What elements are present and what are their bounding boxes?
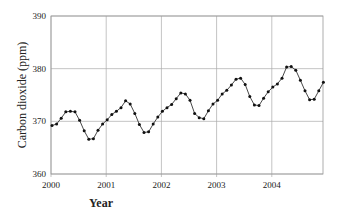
data-point: [230, 83, 233, 86]
data-point: [193, 112, 196, 115]
data-point: [253, 104, 256, 107]
x-tick-label: 2002: [152, 180, 170, 190]
data-point: [51, 124, 54, 127]
co2-line-chart: 360370380390 20002001200220032004 Year C…: [0, 0, 340, 218]
data-point: [161, 110, 164, 113]
data-point: [216, 99, 219, 102]
data-point: [133, 112, 136, 115]
x-tick-label: 2000: [42, 180, 61, 190]
data-point: [138, 123, 141, 126]
data-point: [97, 129, 100, 132]
data-point: [175, 97, 178, 100]
y-tick-label: 390: [33, 11, 47, 21]
data-point: [271, 86, 274, 89]
data-point: [317, 89, 320, 92]
data-point: [152, 122, 155, 125]
data-point: [212, 102, 215, 105]
data-point: [308, 98, 311, 101]
data-point: [235, 78, 238, 81]
data-point: [290, 65, 293, 68]
data-point: [207, 109, 210, 112]
data-point: [299, 79, 302, 82]
x-axis-label: Year: [89, 196, 114, 210]
y-axis-label: Carbon dioxide (ppm): [15, 42, 29, 149]
data-point: [64, 110, 67, 113]
x-tick-label: 2001: [97, 180, 115, 190]
data-point: [248, 95, 251, 98]
data-point: [110, 113, 113, 116]
data-point: [115, 110, 118, 113]
data-point: [78, 119, 81, 122]
data-point: [313, 98, 316, 101]
y-axis-ticks: 360370380390: [33, 11, 47, 179]
data-point: [221, 92, 224, 95]
data-point: [202, 117, 205, 120]
data-point: [184, 92, 187, 95]
data-point: [129, 102, 132, 105]
data-point: [179, 91, 182, 94]
x-tick-label: 2003: [208, 180, 227, 190]
data-point: [55, 122, 58, 125]
data-point: [87, 138, 90, 141]
plot-area-frame: [51, 16, 323, 174]
data-point: [276, 82, 279, 85]
data-markers: [51, 65, 325, 141]
data-point: [60, 117, 63, 120]
data-point: [239, 77, 242, 80]
data-point: [120, 106, 123, 109]
y-tick-label: 380: [33, 64, 47, 74]
data-point: [267, 90, 270, 93]
data-point: [170, 103, 173, 106]
data-point: [294, 69, 297, 72]
data-point: [198, 116, 201, 119]
data-point: [189, 99, 192, 102]
data-point: [304, 89, 307, 92]
data-point: [83, 129, 86, 132]
data-point: [281, 77, 284, 80]
data-point: [92, 137, 95, 140]
data-point: [258, 104, 261, 107]
data-point: [285, 66, 288, 69]
data-point: [143, 131, 146, 134]
data-point: [322, 81, 325, 84]
data-point: [166, 106, 169, 109]
data-point: [101, 122, 104, 125]
data-point: [225, 89, 228, 92]
x-tick-label: 2004: [263, 180, 282, 190]
data-point: [244, 83, 247, 86]
x-axis-ticks: 20002001200220032004: [42, 180, 281, 190]
data-point: [147, 130, 150, 133]
y-tick-label: 370: [33, 116, 47, 126]
data-point: [106, 118, 109, 121]
data-point: [156, 116, 159, 119]
y-tick-label: 360: [33, 169, 47, 179]
data-point: [69, 110, 72, 113]
data-point: [74, 110, 77, 113]
data-point: [124, 99, 127, 102]
data-point: [262, 97, 265, 100]
